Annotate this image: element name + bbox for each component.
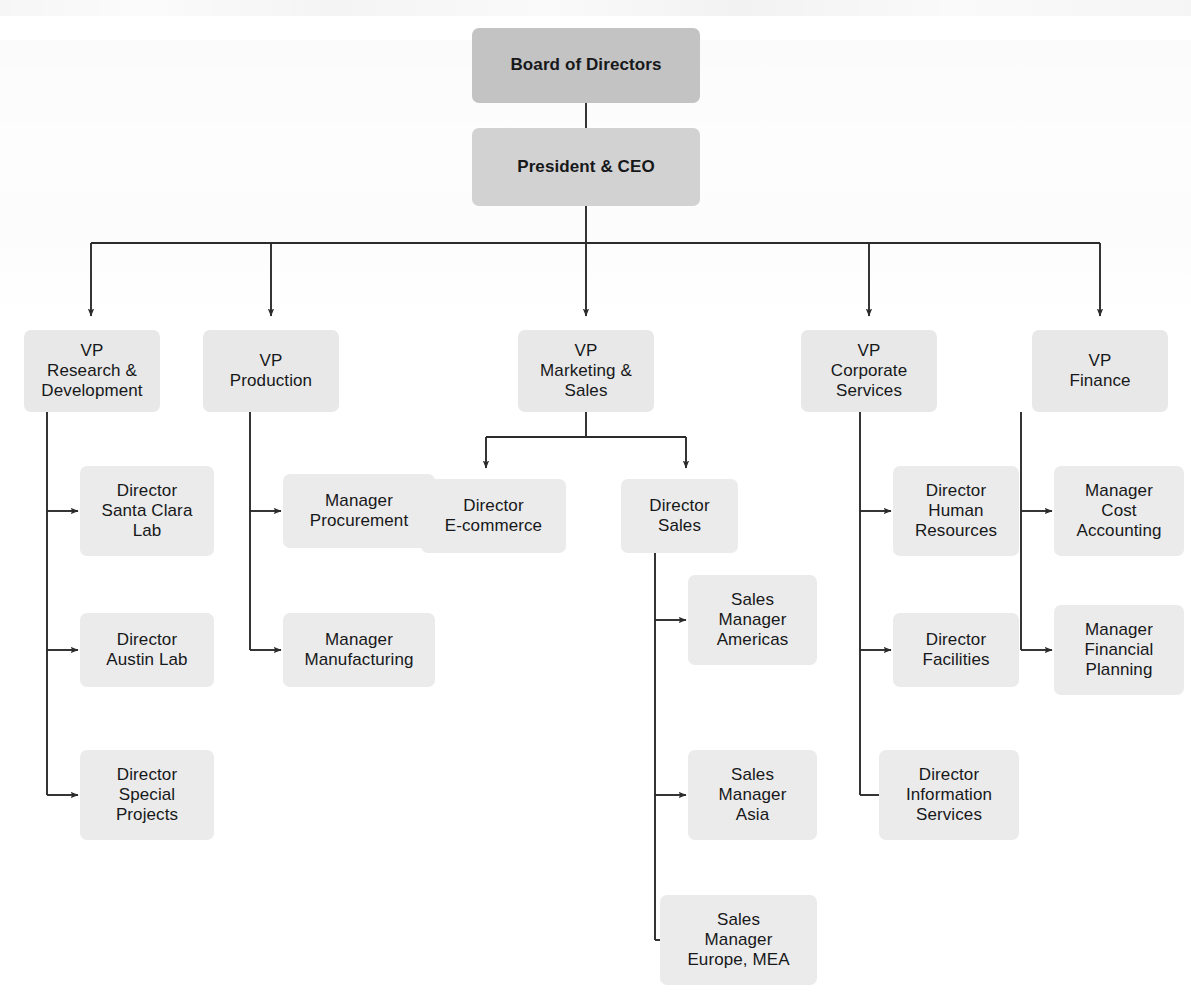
node-director-facilities[interactable]: Director Facilities: [893, 613, 1019, 687]
node-vp-marketing-sales[interactable]: VP Marketing & Sales: [518, 330, 654, 412]
org-chart-diagram: Board of Directors President & CEO VP Re…: [0, 0, 1191, 1001]
node-director-austin-lab[interactable]: Director Austin Lab: [80, 613, 214, 687]
node-director-human-resources[interactable]: Director Human Resources: [893, 466, 1019, 556]
node-vp-research-development[interactable]: VP Research & Development: [24, 330, 160, 412]
node-manager-manufacturing[interactable]: Manager Manufacturing: [283, 613, 435, 687]
node-sales-manager-europe-mea[interactable]: Sales Manager Europe, MEA: [660, 895, 817, 985]
node-president-ceo[interactable]: President & CEO: [472, 128, 700, 206]
node-manager-financial-planning[interactable]: Manager Financial Planning: [1054, 605, 1184, 695]
node-manager-procurement[interactable]: Manager Procurement: [283, 474, 435, 548]
node-sales-manager-asia[interactable]: Sales Manager Asia: [688, 750, 817, 840]
node-director-ecommerce[interactable]: Director E-commerce: [421, 479, 566, 553]
node-director-information-services[interactable]: Director Information Services: [879, 750, 1019, 840]
node-director-special-projects[interactable]: Director Special Projects: [80, 750, 214, 840]
node-director-santa-clara-lab[interactable]: Director Santa Clara Lab: [80, 466, 214, 556]
node-director-sales[interactable]: Director Sales: [621, 479, 738, 553]
node-vp-finance[interactable]: VP Finance: [1032, 330, 1168, 412]
node-vp-corporate-services[interactable]: VP Corporate Services: [801, 330, 937, 412]
node-board-of-directors[interactable]: Board of Directors: [472, 28, 700, 103]
node-manager-cost-accounting[interactable]: Manager Cost Accounting: [1054, 466, 1184, 556]
node-sales-manager-americas[interactable]: Sales Manager Americas: [688, 575, 817, 665]
node-vp-production[interactable]: VP Production: [203, 330, 339, 412]
